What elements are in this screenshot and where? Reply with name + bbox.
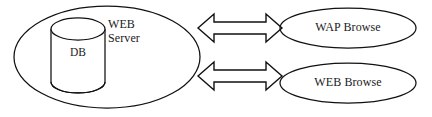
db-cylinder-top — [51, 18, 105, 40]
web-server-label-line-2: Server — [108, 31, 168, 45]
architecture-diagram: DB WEB Server WAP Browse WEB Browse — [0, 0, 432, 117]
db-label: DB — [57, 46, 99, 60]
web-server-label: WEB Server — [108, 17, 168, 45]
web-server-boundary-ellipse — [14, 6, 200, 108]
connector-arrow-web — [198, 62, 282, 90]
web-server-label-line-1: WEB — [108, 17, 168, 31]
wap-browser-label: WAP Browse — [286, 20, 410, 34]
connector-arrow-wap — [198, 14, 282, 42]
web-browser-label: WEB Browse — [286, 75, 410, 89]
